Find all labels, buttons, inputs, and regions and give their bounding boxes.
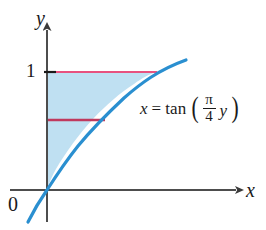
equation-open-paren: ( (191, 95, 198, 118)
y-axis-label: y (36, 8, 45, 28)
origin-label: 0 (8, 194, 18, 214)
fraction-numerator: π (203, 92, 215, 108)
fraction-denominator: 4 (203, 109, 215, 125)
figure-container: y x 1 0 x = tan ( π 4 y ) (0, 0, 266, 230)
x-axis-label: x (246, 180, 255, 200)
equation-variable: y (220, 102, 228, 119)
equation-lhs: x (140, 100, 148, 117)
equation-fraction: π 4 (203, 92, 216, 124)
y-tick-label-1: 1 (26, 61, 36, 80)
equation-close-paren: ) (231, 95, 238, 118)
equation-equals: = (151, 100, 163, 117)
curve-equation-label: x = tan ( π 4 y ) (140, 92, 240, 124)
shaded-region (47, 72, 156, 190)
equation-function: tan (165, 100, 186, 117)
